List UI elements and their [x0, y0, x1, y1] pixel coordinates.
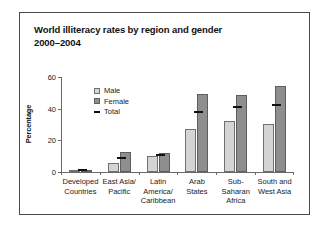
x-tick [139, 172, 140, 175]
y-tick-label: 40 [48, 104, 56, 113]
y-axis-title: Percentage [24, 105, 33, 143]
x-axis-category-label: South and West Asia [249, 177, 300, 196]
bar-female [120, 152, 131, 172]
legend-swatch-male-icon [94, 88, 100, 94]
bar-group: Sub- Saharan Africa [216, 77, 255, 172]
y-tick-label: 0 [52, 168, 56, 177]
bar-male [185, 129, 196, 172]
chart-title-line2: 2000–2004 [34, 37, 284, 50]
legend-item-total: Total [94, 107, 129, 116]
x-tick [216, 172, 217, 175]
total-marker [78, 169, 87, 171]
bar-female [159, 153, 170, 172]
chart-figure: World illiteracy rates by region and gen… [19, 12, 310, 215]
bar-group: Latin America/ Caribbean [139, 77, 178, 172]
legend-label-total: Total [104, 107, 120, 116]
bar-male [147, 156, 158, 172]
chart-title-line1: World illiteracy rates by region and gen… [34, 24, 222, 35]
legend-label-female: Female [104, 97, 129, 106]
total-marker [156, 154, 165, 156]
x-tick [100, 172, 101, 175]
bar-male [108, 163, 119, 172]
legend-item-female: Female [94, 97, 129, 106]
x-tick [293, 172, 294, 175]
legend-swatch-female-icon [94, 98, 100, 104]
total-marker [272, 104, 281, 106]
total-marker [233, 106, 242, 108]
x-tick [61, 172, 62, 175]
bar-female [197, 94, 208, 172]
x-tick [177, 172, 178, 175]
y-tick-label: 20 [48, 136, 56, 145]
bar-female [275, 86, 286, 172]
x-tick [255, 172, 256, 175]
total-marker [194, 111, 203, 113]
y-tick-label: 60 [48, 73, 56, 82]
chart-legend: Male Female Total [94, 86, 129, 118]
bar-group: Arab States [178, 77, 217, 172]
legend-label-male: Male [104, 86, 120, 95]
chart-title: World illiteracy rates by region and gen… [34, 24, 284, 49]
legend-dash-total-icon [94, 109, 100, 115]
total-marker [117, 157, 126, 159]
bar-male [224, 121, 235, 172]
bar-male [263, 124, 274, 172]
legend-item-male: Male [94, 86, 129, 95]
bar-group: South and West Asia [255, 77, 294, 172]
